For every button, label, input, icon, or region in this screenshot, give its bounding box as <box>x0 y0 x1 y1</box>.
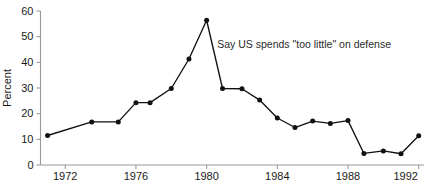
data-point <box>133 100 138 105</box>
data-point <box>275 116 280 121</box>
annotation-label: Say US spends "too little" on defense <box>217 38 391 50</box>
data-point <box>169 86 174 91</box>
x-axis-tick-label: 1980 <box>194 170 218 182</box>
data-point <box>45 133 50 138</box>
y-axis-tick-label: 30 <box>21 82 33 94</box>
defense-spending-line-chart: 0102030405060 197219761980198419881992 P… <box>0 0 425 192</box>
data-point <box>204 18 209 23</box>
data-point <box>220 86 225 91</box>
y-axis-tick-label: 0 <box>27 159 33 171</box>
y-axis-title: Percent <box>1 69 13 107</box>
x-axis-tick-label: 1976 <box>124 170 148 182</box>
y-axis-tick-label: 10 <box>21 133 33 145</box>
x-axis-tick-label: 1992 <box>393 170 417 182</box>
y-axis-tick-label: 20 <box>21 107 33 119</box>
y-axis: 0102030405060 <box>21 5 40 171</box>
data-point <box>328 121 333 126</box>
chart-canvas: 0102030405060 197219761980198419881992 P… <box>0 0 425 192</box>
data-point <box>148 100 153 105</box>
data-point <box>239 86 244 91</box>
y-axis-tick-label: 50 <box>21 30 33 42</box>
x-axis-tick-label: 1972 <box>53 170 77 182</box>
y-axis-title-label: Percent <box>1 69 13 107</box>
data-point <box>292 125 297 130</box>
data-point <box>89 119 94 124</box>
data-point <box>361 151 366 156</box>
data-point <box>116 119 121 124</box>
chart-annotation: Say US spends "too little" on defense <box>217 38 391 50</box>
x-axis-tick-label: 1988 <box>336 170 360 182</box>
data-point <box>416 133 421 138</box>
data-point <box>186 57 191 62</box>
data-point <box>346 118 351 123</box>
x-axis: 197219761980198419881992 <box>41 165 425 182</box>
data-point <box>310 119 315 124</box>
data-point <box>381 148 386 153</box>
y-axis-tick-label: 60 <box>21 5 33 17</box>
data-point <box>257 98 262 103</box>
y-axis-tick-label: 40 <box>21 56 33 68</box>
x-axis-tick-label: 1984 <box>265 170 289 182</box>
data-point <box>399 151 404 156</box>
